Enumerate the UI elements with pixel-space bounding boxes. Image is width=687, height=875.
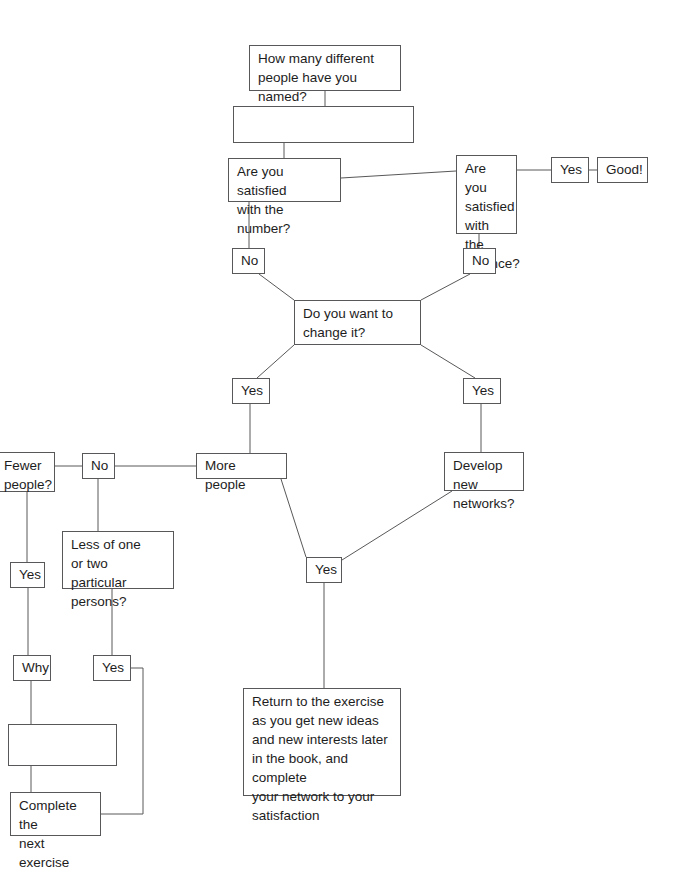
connector-change-to-yes-right [421, 345, 475, 378]
node-answer-blank-1 [233, 106, 414, 143]
node-yes-balance: Yes [551, 157, 589, 183]
node-less-of-one: Less of one or two particular persons? [62, 531, 174, 589]
node-more-people: More people [196, 453, 287, 479]
connector-develop-to-yes-center [342, 491, 452, 560]
node-change-it: Do you want to change it? [294, 300, 421, 345]
node-answer-blank-2 [8, 724, 117, 766]
node-yes-right: Yes [463, 378, 501, 404]
node-satisfied-number: Are you satisfied with the number? [228, 158, 341, 202]
connector-no-number-to-change [259, 274, 294, 300]
node-yes-less: Yes [93, 655, 131, 681]
node-fewer-people: Fewer people? [0, 452, 55, 492]
node-return-exercise: Return to the exercise as you get new id… [243, 688, 401, 796]
connector-more-people-to-yes-center [281, 479, 306, 557]
node-complete-next: Complete the next exercise [10, 792, 101, 836]
node-develop-networks: Develop new networks? [444, 452, 524, 491]
node-no-number: No [232, 248, 265, 274]
node-good: Good! [597, 157, 648, 183]
flowchart-canvas: How many different people have you named… [0, 0, 687, 875]
node-yes-center: Yes [306, 557, 342, 583]
node-why: Why [13, 655, 51, 681]
connector-change-to-yes-left [257, 345, 294, 378]
node-no-balance: No [463, 248, 496, 274]
connector-satisfied-number-to-balance [341, 171, 456, 178]
node-yes-left: Yes [232, 378, 270, 404]
node-yes-fewer: Yes [10, 562, 45, 588]
node-no-fewer: No [82, 453, 115, 479]
node-how-many: How many different people have you named… [249, 45, 401, 91]
node-satisfied-balance: Are you satisfied with the balance? [456, 155, 517, 234]
connector-no-balance-to-change [421, 274, 470, 300]
